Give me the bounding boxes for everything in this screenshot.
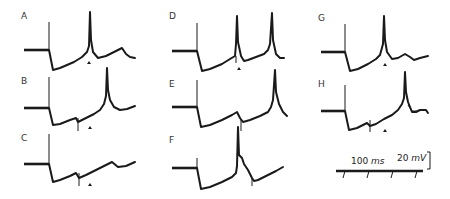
trace-a: [24, 12, 135, 70]
trace-e: [172, 70, 287, 131]
trace-h: [321, 72, 428, 132]
panel-label-d: D: [169, 11, 176, 21]
trace-b: [24, 68, 135, 131]
trace-c: [24, 134, 135, 186]
traces-svg: [0, 0, 450, 199]
panel-label-h: H: [318, 79, 325, 89]
trace-g: [321, 16, 428, 71]
trace-d: [172, 13, 284, 71]
trace-f: [172, 127, 283, 189]
voltage-scale-label: 20 mV: [397, 153, 426, 163]
panel-label-g: G: [318, 13, 325, 23]
panel-label-e: E: [169, 79, 175, 89]
panel-label-a: A: [21, 11, 27, 21]
voltage-traces-figure: A B C D E F G H 20 mV 100 ms: [0, 0, 450, 199]
time-scale-label: 100 ms: [351, 156, 385, 166]
panel-label-b: B: [21, 76, 27, 86]
panel-label-f: F: [169, 135, 174, 145]
voltage-scale-bracket: [427, 152, 430, 169]
panel-label-c: C: [21, 133, 27, 143]
